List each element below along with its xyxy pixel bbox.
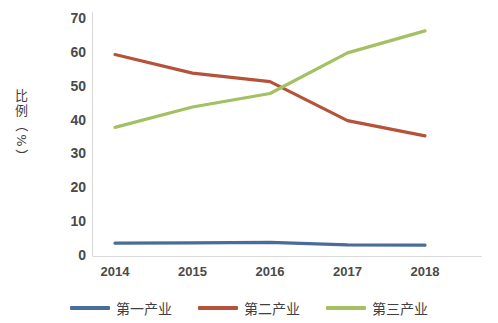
y-axis-title: 比 例 （ % ） — [8, 88, 34, 163]
legend-item[interactable]: 第三产业 — [326, 298, 428, 318]
legend-item[interactable]: 第一产业 — [70, 298, 172, 318]
x-axis-tick-label: 2015 — [163, 264, 223, 279]
y-axis-tick-label: 30 — [52, 145, 86, 161]
legend-item[interactable]: 第二产业 — [198, 298, 300, 318]
series-line — [115, 31, 425, 127]
series-line — [115, 242, 425, 245]
legend-label: 第二产业 — [244, 298, 300, 318]
y-axis-tick-label: 60 — [52, 44, 86, 60]
plot-svg — [92, 12, 482, 262]
legend-color-swatch — [198, 306, 238, 310]
y-axis-tick-labels: 010203040506070 — [48, 0, 86, 270]
x-axis-tick-label: 2014 — [85, 264, 145, 279]
y-axis-tick-label: 0 — [52, 247, 86, 263]
y-axis-tick-label: 70 — [52, 10, 86, 26]
y-axis-title-close-paren: ） — [14, 143, 29, 169]
x-axis-tick-labels: 20142015201620172018 — [92, 264, 482, 288]
y-axis-tick-label: 10 — [52, 213, 86, 229]
y-axis-tick-label: 50 — [52, 78, 86, 94]
x-axis-tick-label: 2017 — [318, 264, 378, 279]
y-axis-tick-label: 20 — [52, 179, 86, 195]
legend-label: 第一产业 — [116, 298, 172, 318]
series-line — [115, 55, 425, 136]
x-axis-tick-label: 2018 — [395, 264, 455, 279]
legend-label: 第三产业 — [372, 298, 428, 318]
chart-legend: 第一产业第二产业第三产业 — [0, 296, 498, 320]
legend-color-swatch — [326, 306, 366, 310]
y-axis-title-char-1: 比 — [8, 88, 34, 103]
x-axis-tick-label: 2016 — [240, 264, 300, 279]
y-axis-tick-label: 40 — [52, 112, 86, 128]
legend-color-swatch — [70, 306, 110, 310]
series-layer — [115, 31, 425, 245]
plot-area — [92, 12, 482, 262]
line-chart: 比 例 （ % ） 010203040506070 20142015201620… — [0, 0, 498, 323]
